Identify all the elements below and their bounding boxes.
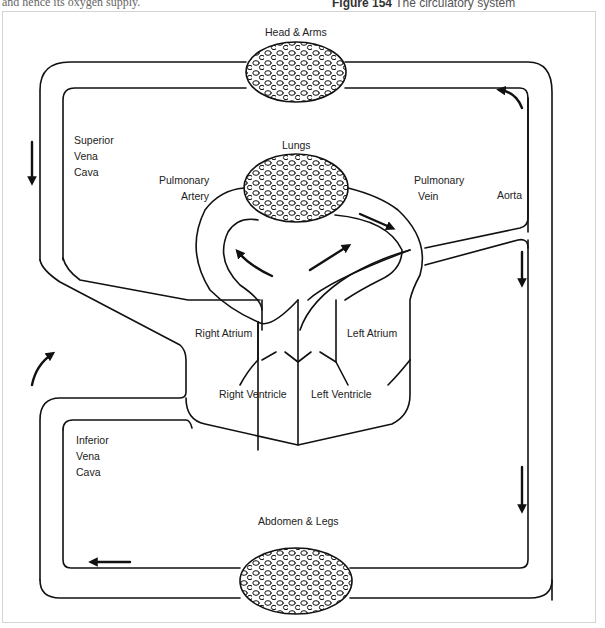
label-aorta: Aorta — [497, 187, 522, 203]
arrow-pulmonary-vein — [310, 246, 348, 270]
abdomen-legs-capillary-bed — [240, 548, 352, 614]
label-right-atrium: Right Atrium — [195, 325, 252, 341]
label-pulmonary-artery: Pulmonary Artery — [159, 172, 209, 204]
label-right-ventricle: Right Ventricle — [219, 386, 287, 402]
label-left-atrium: Left Atrium — [347, 325, 397, 341]
label-abdomen-legs: Abdomen & Legs — [258, 513, 339, 529]
label-head-arms: Head & Arms — [265, 24, 327, 40]
lungs-capillary-bed — [244, 154, 348, 222]
label-left-ventricle: Left Ventricle — [311, 386, 372, 402]
label-lungs: Lungs — [282, 137, 311, 153]
label-pulmonary-vein: Pulmonary Vein — [414, 172, 464, 204]
circulatory-diagram — [0, 0, 605, 628]
arrow-aorta-top — [500, 90, 522, 108]
svc-inner — [63, 258, 260, 300]
label-superior-vena-cava: Superior Vena Cava — [74, 132, 114, 180]
label-inferior-vena-cava: Inferior Vena Cava — [76, 432, 109, 480]
arrow-pulmonary-artery — [238, 252, 272, 276]
inferior-vena-cava-inner — [63, 420, 192, 430]
arrow-inferior-vena-cava — [32, 354, 52, 385]
